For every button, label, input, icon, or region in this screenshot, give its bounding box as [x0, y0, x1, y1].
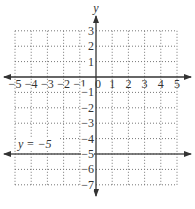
y-tick-label: −5	[81, 147, 94, 161]
x-tick-label: 2	[125, 77, 131, 91]
x-tick-label: 3	[142, 77, 148, 91]
y-tick-label: −7	[81, 178, 94, 192]
y-tick-label: −3	[81, 116, 94, 130]
y-tick-label: 3	[88, 24, 94, 38]
x-tick-label: 4	[158, 77, 164, 91]
y-axis-label: y	[92, 1, 99, 15]
x-tick-label: 1	[109, 77, 115, 91]
y-tick-label: 2	[88, 39, 94, 53]
x-tick-label: 5	[174, 77, 180, 91]
line-label-group: y = −5	[16, 137, 59, 151]
x-tick-label: −2	[57, 77, 70, 91]
y-tick-label: −1	[81, 85, 94, 99]
series-right-arrow-icon	[184, 151, 192, 157]
y-tick-label: −6	[81, 162, 94, 176]
tick-labels: −5−4−3−2−1012345321−1−2−3−4−5−6−7	[9, 24, 180, 192]
y-tick-label: 1	[88, 55, 94, 69]
graph-line-y-equals-minus-5	[3, 151, 192, 157]
x-tick-label: 0	[95, 77, 101, 91]
series-left-arrow-icon	[3, 151, 11, 157]
x-tick-label: −4	[25, 77, 38, 91]
x-axis-right-arrow-icon	[184, 74, 192, 80]
x-tick-label: −5	[9, 77, 22, 91]
x-tick-label: −3	[41, 77, 54, 91]
y-tick-label: −4	[81, 132, 94, 146]
y-axis-up-arrow-icon	[93, 15, 99, 23]
y-tick-label: −2	[81, 101, 94, 115]
coordinate-plane: −5−4−3−2−1012345321−1−2−3−4−5−6−7 y y = …	[0, 0, 195, 209]
line-label: y = −5	[17, 137, 52, 151]
